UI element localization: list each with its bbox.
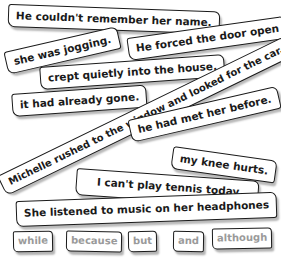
conjunction-text: because — [71, 235, 118, 247]
sentence-text: She listened to music on her headphones — [24, 198, 270, 219]
conjunction-text: and — [178, 235, 199, 246]
conjunction-card-because[interactable]: because — [66, 231, 123, 253]
sentence-strip-she-listened-to-music[interactable]: She listened to music on her headphones — [16, 192, 278, 227]
conjunction-card-and[interactable]: and — [173, 231, 204, 253]
sentence-text: it had already gone. — [20, 90, 140, 110]
conjunction-card-although[interactable]: although — [212, 227, 273, 249]
conjunction-text: but — [133, 235, 152, 246]
sentence-text: He couldn't remember her name. — [16, 9, 212, 28]
sentence-text: my knee hurts. — [179, 152, 269, 176]
conjunction-card-while[interactable]: while — [13, 231, 53, 253]
conjunction-text: while — [18, 235, 48, 247]
conjunction-card-but[interactable]: but — [128, 231, 157, 253]
conjunction-text: although — [217, 232, 268, 244]
